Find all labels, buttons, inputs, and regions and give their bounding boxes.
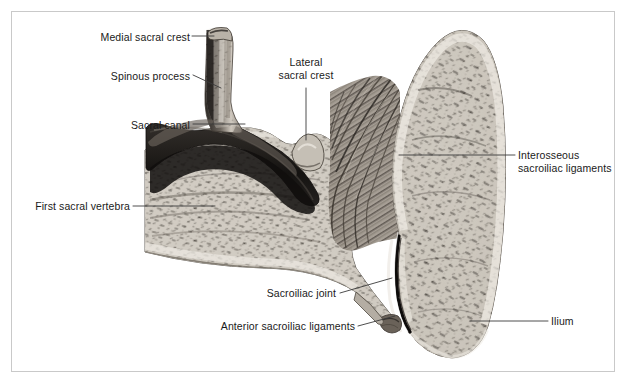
label-interosseous-line-1: Interosseous: [518, 149, 626, 162]
label-lateral-sacral-crest-line-2: sacral crest: [266, 69, 346, 82]
label-sacroiliac-joint: Sacroiliac joint: [246, 287, 336, 300]
label-interosseous-sacroiliac-ligaments: Interosseous sacroiliac ligaments: [518, 149, 626, 175]
label-sacroiliac-joint-line-1: Sacroiliac joint: [267, 287, 336, 299]
label-lateral-sacral-crest: Lateral sacral crest: [266, 56, 346, 82]
anatomical-figure: Medial sacral crest Spinous process Sacr…: [0, 0, 629, 389]
label-medial-sacral-crest: Medial sacral crest: [85, 31, 190, 44]
label-anterior-sacroiliac-ligaments: Anterior sacroiliac ligaments: [205, 320, 355, 333]
label-interosseous-line-2: sacroiliac ligaments: [518, 162, 626, 175]
label-sacral-canal: Sacral canal: [110, 119, 190, 132]
label-spinous-process-line-1: Spinous process: [111, 70, 190, 82]
label-first-sacral-vertebra-line-1: First sacral vertebra: [35, 200, 130, 212]
label-ilium: Ilium: [551, 315, 596, 328]
label-medial-sacral-crest-line-1: Medial sacral crest: [101, 31, 190, 43]
label-first-sacral-vertebra: First sacral vertebra: [20, 200, 130, 213]
label-anterior-sacroiliac-ligaments-line-1: Anterior sacroiliac ligaments: [221, 320, 355, 332]
label-spinous-process: Spinous process: [90, 70, 190, 83]
label-lateral-sacral-crest-line-1: Lateral: [266, 56, 346, 69]
label-ilium-line-1: Ilium: [551, 315, 574, 327]
label-sacral-canal-line-1: Sacral canal: [131, 119, 190, 131]
